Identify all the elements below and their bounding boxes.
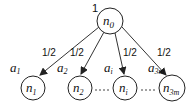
node-n3m: n3m — [159, 75, 185, 101]
edge-label-n3m: 1/2 — [157, 47, 171, 58]
node-n1: n1 — [21, 76, 45, 100]
root-weight-label: 1 — [92, 2, 98, 14]
tree-diagram: n0 1 1/2 1/2 1/2 1/2 a1 a2 ai a3m n1 n2 … — [0, 0, 194, 106]
edge-label-n2: 1/2 — [70, 47, 84, 58]
node-n0: n0 — [97, 8, 123, 34]
node-ni: ni — [113, 76, 137, 100]
edge-label-n1: 1/2 — [42, 47, 56, 58]
a-label-i: ai — [104, 60, 113, 76]
edge-label-ni: 1/2 — [123, 47, 137, 58]
a-label-3m: a3m — [148, 60, 165, 76]
a-label-2: a2 — [57, 60, 68, 76]
node-n2: n2 — [68, 76, 92, 100]
a-label-1: a1 — [10, 60, 21, 76]
